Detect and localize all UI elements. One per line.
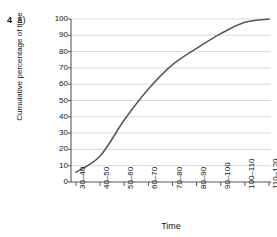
x-tick-label: 110–120 bbox=[272, 158, 277, 189]
x-tick-label: 70–80 bbox=[176, 167, 184, 189]
x-tick-label: 80–90 bbox=[200, 167, 208, 189]
x-tick-label: 30–40 bbox=[79, 167, 87, 189]
figure-container: 4a) Cumulative percentage of time 100 90… bbox=[0, 0, 277, 237]
x-axis-label: Time bbox=[71, 221, 271, 231]
x-tick-label: 60–70 bbox=[151, 167, 159, 189]
x-tick-label: 90–100 bbox=[224, 162, 232, 189]
x-tick-label: 40–50 bbox=[103, 167, 111, 189]
x-tick-label: 100–110 bbox=[248, 158, 256, 189]
x-axis-tick-labels: 30–40 40–50 50–60 60–70 70–80 80–90 90–1… bbox=[0, 0, 277, 237]
x-tick-label: 50–60 bbox=[127, 167, 135, 189]
